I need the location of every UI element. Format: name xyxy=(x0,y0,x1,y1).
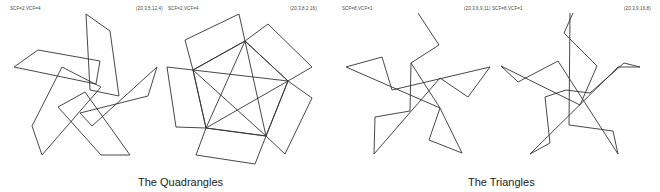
quadrangle-star-figure xyxy=(160,0,330,172)
panel-quadrangles-2: SCF=2,VCF=4 (20,3,8,2,16) xyxy=(160,0,330,172)
caption-triangles: The Triangles xyxy=(468,176,535,188)
panel-triangles-1: SCF=8,VCF=1 (20,3,6,9,11) xyxy=(330,0,495,172)
triangle-star-figure xyxy=(490,0,660,172)
triangle-pinwheel-figure xyxy=(330,0,495,172)
panel-triangles-2: SCF=8,VCF=1 (20,3,9,16,8) xyxy=(490,0,660,172)
quadrangle-pinwheel-figure xyxy=(0,0,170,172)
caption-quadrangles: The Quadrangles xyxy=(138,176,223,188)
panel-quadrangles-1: SCF=2,VCF=4 (20,3,5,12,4) xyxy=(0,0,170,172)
